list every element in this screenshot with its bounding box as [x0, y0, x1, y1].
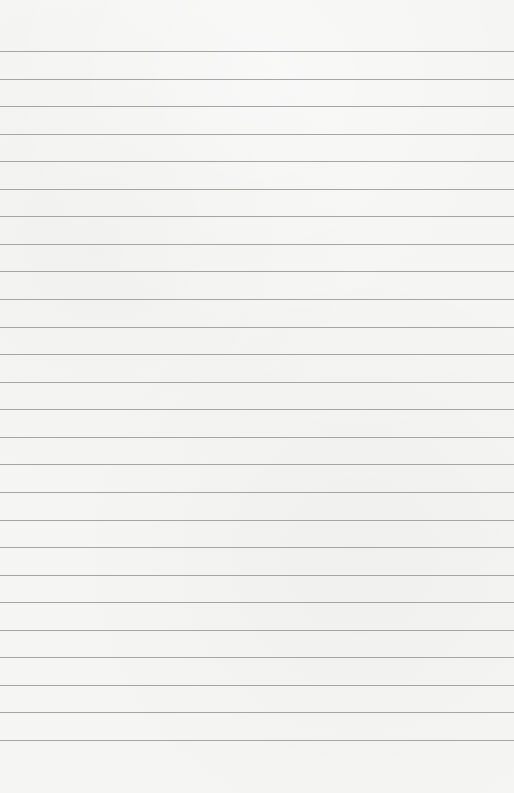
ruled-line [0, 79, 514, 80]
ruled-line [0, 106, 514, 107]
ruled-line [0, 520, 514, 521]
ruled-line [0, 437, 514, 438]
lined-paper [0, 0, 514, 793]
ruled-line [0, 216, 514, 217]
ruled-line [0, 657, 514, 658]
ruled-line [0, 51, 514, 52]
ruled-line [0, 685, 514, 686]
ruled-line [0, 492, 514, 493]
ruled-line [0, 382, 514, 383]
ruled-line [0, 161, 514, 162]
ruled-line [0, 271, 514, 272]
ruled-line [0, 602, 514, 603]
ruled-line [0, 327, 514, 328]
ruled-line [0, 189, 514, 190]
ruled-line [0, 134, 514, 135]
ruled-line [0, 575, 514, 576]
ruled-line [0, 464, 514, 465]
ruled-line [0, 547, 514, 548]
ruled-line [0, 712, 514, 713]
ruled-line [0, 409, 514, 410]
ruled-line [0, 630, 514, 631]
ruled-line [0, 299, 514, 300]
ruled-line [0, 740, 514, 741]
ruled-line [0, 354, 514, 355]
ruled-line [0, 244, 514, 245]
